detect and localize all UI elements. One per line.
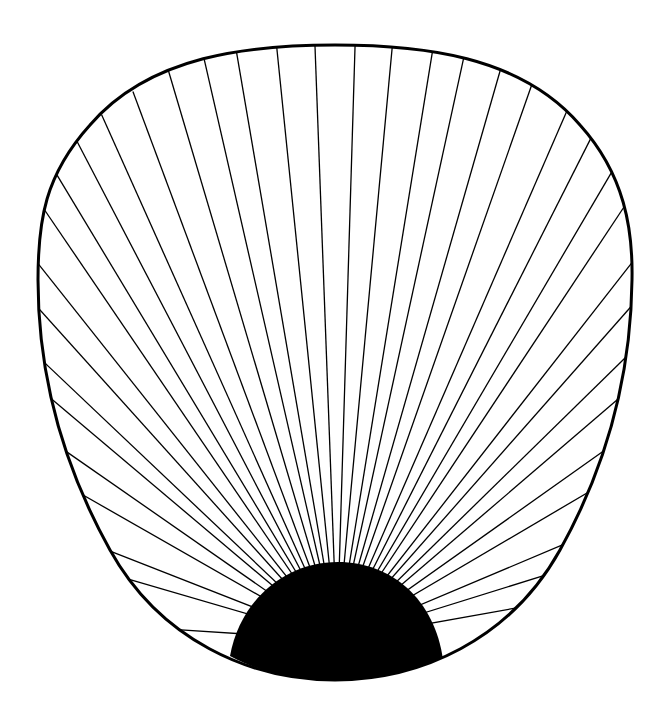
ray-line [337, 48, 433, 640]
ray-line [57, 175, 337, 640]
ray-line [168, 70, 337, 640]
fan-diagram [0, 0, 664, 721]
black-hub-semicircle [230, 562, 443, 680]
ray-line [133, 91, 337, 640]
ray-line [204, 57, 337, 640]
ray-line [337, 65, 502, 640]
ray-line [315, 41, 337, 640]
ray-line [337, 55, 464, 640]
ray-line [337, 41, 355, 640]
ray-line [337, 43, 393, 640]
ray-line [337, 170, 613, 640]
radiating-lines [36, 41, 634, 640]
fan-illustration [0, 0, 664, 721]
ray-line [337, 108, 568, 641]
